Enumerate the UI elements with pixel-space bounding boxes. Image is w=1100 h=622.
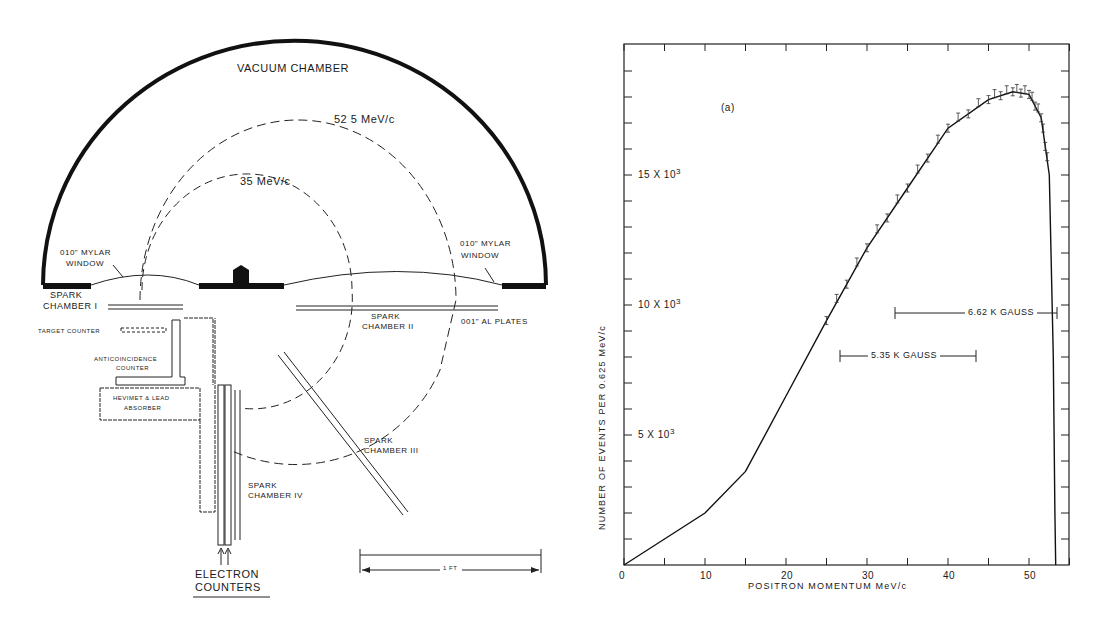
- error-bar: [1015, 84, 1019, 92]
- spark-chamber-1-line2: CHAMBER I: [43, 301, 98, 311]
- error-bar: [1043, 142, 1047, 150]
- anticoincidence-counter: [116, 320, 185, 385]
- vacuum-chamber-label: VACUUM CHAMBER: [237, 62, 349, 74]
- absorber-line1: HEVIMET & LEAD: [113, 395, 170, 401]
- electron-counters-line2: COUNTERS: [195, 581, 261, 593]
- mylar-right-line1: 010" MYLAR: [460, 239, 511, 248]
- x-tick-label: 10: [700, 570, 712, 581]
- x-tick-label: 30: [862, 570, 874, 581]
- target-counter: [121, 328, 166, 332]
- mylar-window-right: [284, 272, 502, 286]
- x-tick-label: 50: [1024, 570, 1036, 581]
- x-tick-label: 20: [781, 570, 793, 581]
- mylar-left-line2: WINDOW: [66, 259, 104, 268]
- mylar-window-left: [91, 275, 199, 285]
- annotation-6-62-label: 6.62 K GAUSS: [965, 307, 1037, 317]
- al-plates-label: 001" AL PLATES: [461, 317, 528, 326]
- error-bar: [1023, 86, 1027, 94]
- electron-counter-1: [218, 385, 224, 545]
- spark-chamber-4-line1: SPARK: [248, 481, 277, 490]
- chamber-base-left: [43, 283, 91, 289]
- orbit-35-label: 35 MeV/c: [240, 175, 290, 187]
- target-icon: [233, 265, 249, 283]
- spectrum-chart: [624, 44, 1070, 565]
- hevimet-lead-absorber: [100, 318, 215, 512]
- error-bar: [993, 90, 997, 98]
- x-tick-label: 40: [943, 570, 955, 581]
- spark-chamber-2-line2: CHAMBER II: [362, 322, 414, 331]
- vacuum-chamber-outline: [43, 41, 546, 285]
- electron-counters-line1: ELECTRON: [195, 568, 259, 580]
- y-tick-label: 10 X 103: [638, 297, 681, 310]
- anticoincidence-line1: ANTICOINCIDENCE: [94, 356, 157, 362]
- spark-chamber-1-line1: SPARK: [50, 290, 82, 300]
- x-axis-title: POSITRON MOMENTUM MeV/c: [748, 581, 907, 591]
- target-counter-label: TARGET COUNTER: [38, 328, 100, 334]
- error-bar: [1005, 86, 1009, 94]
- absorber-line2: ABSORBER: [124, 405, 161, 411]
- scale-label: 1 FT: [443, 565, 457, 571]
- y-tick-label: 15 X 103: [638, 167, 681, 180]
- orbit-52-5-label: 52 5 MeV/c: [334, 113, 395, 125]
- mylar-right-line2: WINDOW: [461, 251, 499, 260]
- electron-counter-2: [225, 385, 231, 545]
- chamber-base-right: [502, 283, 546, 289]
- target-base: [199, 283, 284, 289]
- orbit-35: [142, 174, 352, 409]
- orbit-52-5: [140, 120, 456, 465]
- apparatus-diagram: [0, 0, 1100, 622]
- panel-label: (a): [721, 102, 735, 113]
- arrow-icon: [218, 548, 231, 565]
- spark-chamber-3-line1: SPARK: [364, 436, 393, 445]
- spectrum-curve: [624, 92, 1056, 565]
- spark-chamber-2-line1: SPARK: [371, 312, 400, 321]
- y-tick-label: 5 X 103: [638, 427, 675, 440]
- y-axis-title: NUMBER OF EVENTS PER 0.625 MeV/c: [597, 325, 607, 530]
- annotation-5-35-label: 5.35 K GAUSS: [868, 350, 940, 360]
- error-bar: [966, 110, 970, 118]
- plot-frame: [624, 44, 1069, 565]
- spark-chamber-4-line2: CHAMBER IV: [248, 491, 303, 500]
- x-tick-label: 0: [619, 570, 625, 581]
- anticoincidence-line2: COUNTER: [116, 365, 149, 371]
- spark-chamber-3-line2: CHAMBER III: [364, 446, 418, 455]
- mylar-left-line1: 010" MYLAR: [60, 248, 111, 257]
